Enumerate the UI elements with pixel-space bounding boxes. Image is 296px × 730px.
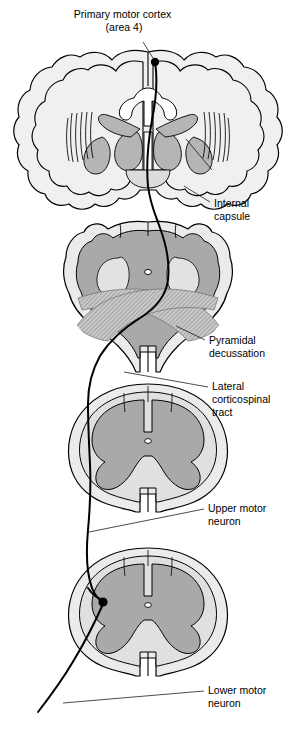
corticospinal-tract-figure: Primary motor cortex (area 4) Internal c… bbox=[0, 0, 296, 730]
label-lateral-corticospinal-tract: Lateral corticospinal tract bbox=[212, 380, 273, 418]
central-canal-cervical bbox=[145, 439, 152, 444]
cervical-cord-section bbox=[69, 384, 228, 512]
label-primary-motor-cortex: Primary motor cortex (area 4) bbox=[74, 8, 174, 33]
label-line: Internal bbox=[214, 197, 249, 209]
label-line: corticospinal bbox=[212, 393, 270, 405]
label-line: Lateral bbox=[212, 380, 244, 392]
label-line: Primary motor cortex bbox=[74, 8, 172, 20]
central-canal-lumbar bbox=[145, 603, 152, 608]
label-line: tract bbox=[212, 406, 233, 418]
figure-canvas: Primary motor cortex (area 4) Internal c… bbox=[0, 0, 296, 730]
label-line: capsule bbox=[214, 210, 250, 222]
medulla-section bbox=[64, 221, 233, 372]
leader-lower-motor-neuron bbox=[63, 691, 204, 703]
label-internal-capsule: Internal capsule bbox=[214, 197, 252, 222]
label-line: decussation bbox=[209, 347, 265, 359]
label-lower-motor-neuron: Lower motor neuron bbox=[208, 684, 269, 709]
label-line: neuron bbox=[208, 515, 241, 527]
upper-motor-neuron-cell-body bbox=[151, 58, 159, 66]
label-line: Pyramidal bbox=[209, 334, 256, 346]
label-upper-motor-neuron: Upper motor neuron bbox=[208, 502, 269, 527]
lumbar-cord-section bbox=[69, 548, 228, 676]
leader-upper-motor-neuron bbox=[89, 509, 204, 532]
label-pyramidal-decussation: Pyramidal decussation bbox=[209, 334, 265, 359]
label-line: neuron bbox=[208, 697, 241, 709]
label-line: Lower motor bbox=[208, 684, 267, 696]
central-canal-medulla bbox=[145, 269, 152, 274]
label-line: (area 4) bbox=[106, 21, 143, 33]
label-line: Upper motor bbox=[208, 502, 267, 514]
